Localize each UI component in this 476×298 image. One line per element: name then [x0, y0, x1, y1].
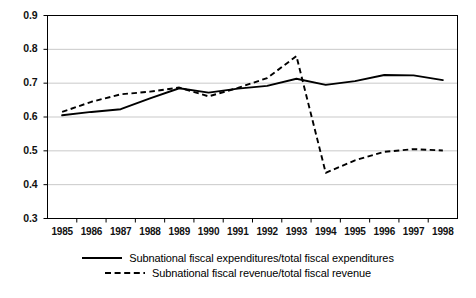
gridlines: [44, 16, 458, 219]
series-line-revenue: [62, 56, 443, 173]
x-axis-tick-label: 1989: [163, 226, 195, 237]
x-axis-tick-label: 1998: [427, 226, 459, 237]
x-axis-tick-label: 1993: [280, 226, 312, 237]
chart-legend: Subnational fiscal expenditures/total fi…: [0, 252, 476, 279]
y-axis-tick-label: 0.3: [8, 212, 38, 224]
x-axis-tick-label: 1994: [310, 226, 342, 237]
legend-item-revenue: Subnational fiscal revenue/total fiscal …: [105, 267, 371, 279]
legend-swatch-solid: [82, 253, 122, 263]
x-axis-tick-label: 1985: [46, 226, 78, 237]
y-axis-tick-label: 0.8: [8, 42, 38, 54]
x-axis-tick-label: 1997: [398, 226, 430, 237]
x-axis-tick-label: 1988: [134, 226, 166, 237]
line-chart: 0.90.80.70.60.50.40.3 198519861987198819…: [0, 0, 476, 298]
series-line-expenditures: [62, 75, 443, 115]
x-axis-tick-label: 1992: [251, 226, 283, 237]
x-axis-tick-label: 1986: [75, 226, 107, 237]
x-axis-ticks: [77, 219, 428, 223]
y-axis-tick-label: 0.5: [8, 144, 38, 156]
legend-label-revenue: Subnational fiscal revenue/total fiscal …: [152, 267, 371, 279]
x-axis-tick-label: 1996: [368, 226, 400, 237]
legend-label-expenditures: Subnational fiscal expenditures/total fi…: [129, 252, 394, 264]
x-axis-tick-label: 1987: [105, 226, 137, 237]
x-axis-tick-label: 1995: [339, 226, 371, 237]
legend-swatch-dashed: [105, 268, 145, 278]
y-axis-tick-label: 0.6: [8, 110, 38, 122]
y-axis-tick-label: 0.7: [8, 76, 38, 88]
x-axis-tick-label: 1991: [222, 226, 254, 237]
y-axis-tick-label: 0.4: [8, 178, 38, 190]
legend-item-expenditures: Subnational fiscal expenditures/total fi…: [82, 252, 394, 264]
x-axis-tick-label: 1990: [193, 226, 225, 237]
y-axis-tick-label: 0.9: [8, 9, 38, 21]
